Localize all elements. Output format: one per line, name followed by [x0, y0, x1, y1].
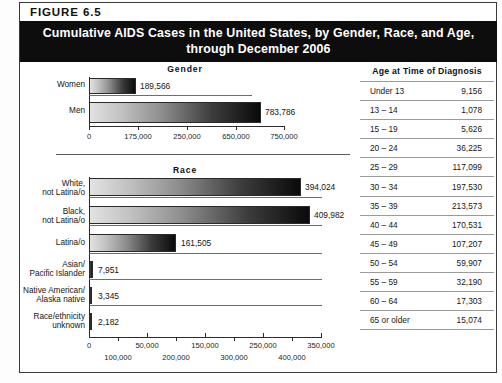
- age-range-label: 15 – 19: [360, 120, 433, 139]
- race-category-label-native: Native American/Alaska native: [20, 286, 85, 305]
- race-row-rule-5: [89, 305, 322, 306]
- table-row: 50 – 5459,907: [360, 253, 494, 272]
- gender-tick-label-4: 750,000: [260, 132, 308, 141]
- race-bar-native: [89, 287, 92, 304]
- race-tick-label-upper-4: 350,000: [299, 341, 343, 350]
- age-range-label: Under 13: [360, 82, 433, 101]
- table-row: 45 – 49107,207: [360, 234, 494, 253]
- age-range-label: 50 – 54: [360, 253, 433, 272]
- race-tick-label-lower-1: 200,000: [154, 353, 198, 362]
- figure-title-text: Cumulative AIDS Cases in the United Stat…: [43, 26, 475, 57]
- age-range-label: 20 – 24: [360, 139, 433, 158]
- race-category-label-unknown: Race/ethnicityunknown: [20, 312, 85, 331]
- race-value-unknown: 2,182: [98, 317, 119, 327]
- age-table-heading: Age at Time of Diagnosis: [360, 66, 494, 81]
- age-case-count: 117,099: [433, 158, 494, 177]
- table-row: 60 – 6417,303: [360, 292, 494, 311]
- gender-category-label-women: Women: [20, 80, 85, 89]
- race-category-label-asian: Asian/Pacific Islander: [20, 260, 85, 279]
- race-tick-1: [118, 337, 119, 341]
- gender-tick-2: [187, 126, 188, 130]
- age-table-body: Under 139,15613 – 141,07815 – 195,62620 …: [360, 82, 494, 330]
- race-tick-3: [176, 337, 177, 341]
- race-bar-latina: [89, 234, 176, 252]
- age-range-label: 45 – 49: [360, 234, 433, 253]
- race-tick-label-upper-1: 50,000: [125, 341, 169, 350]
- gender-tick-label-2: 250,000: [163, 132, 211, 141]
- race-row-rule-3: [89, 253, 322, 254]
- gender-tick-label-3: 650,000: [212, 132, 260, 141]
- age-range-label: 30 – 34: [360, 177, 433, 196]
- table-row: 40 – 44170,531: [360, 215, 494, 234]
- gender-bar-women: [89, 78, 136, 94]
- race-tick-5: [234, 337, 235, 341]
- race-tick-label-upper-0: 0: [79, 341, 99, 350]
- age-case-count: 9,156: [433, 82, 494, 101]
- table-row: 15 – 195,626: [360, 120, 494, 139]
- age-case-count: 17,303: [433, 292, 494, 311]
- gender-tick-0: [89, 126, 90, 130]
- race-bar-white: [89, 178, 301, 196]
- age-range-label: 55 – 59: [360, 272, 433, 291]
- race-value-white: 394,024: [305, 182, 335, 192]
- age-case-count: 213,573: [433, 196, 494, 215]
- race-value-asian: 7,951: [98, 265, 119, 275]
- race-tick-label-upper-3: 250,000: [241, 341, 285, 350]
- gender-tick-label-0: 0: [79, 132, 99, 141]
- race-category-label-latina: Latina/o: [20, 238, 85, 247]
- age-table: Under 139,15613 – 141,07815 – 195,62620 …: [360, 81, 494, 330]
- age-range-label: 60 – 64: [360, 292, 433, 311]
- race-bar-black: [89, 206, 310, 224]
- race-tick-6: [263, 333, 264, 338]
- charts-panel: Gender Women 189,566 Men 783,786 0 175,0…: [20, 62, 350, 372]
- age-range-label: 40 – 44: [360, 215, 433, 234]
- age-table-panel: Age at Time of Diagnosis Under 139,15613…: [360, 66, 494, 330]
- race-bar-asian: [89, 261, 93, 278]
- gender-bar-men: [89, 102, 261, 123]
- age-range-label: 13 – 14: [360, 101, 433, 120]
- age-case-count: 5,626: [433, 120, 494, 139]
- gender-tick-3: [236, 126, 237, 130]
- age-case-count: 59,907: [433, 253, 494, 272]
- age-case-count: 197,530: [433, 177, 494, 196]
- race-value-latina: 161,505: [181, 238, 211, 248]
- figure-container: FIGURE 6.5 Cumulative AIDS Cases in the …: [0, 0, 502, 383]
- age-range-label: 65 or older: [360, 311, 433, 330]
- race-tick-label-lower-0: 100,000: [96, 353, 140, 362]
- table-row: 35 – 39213,573: [360, 196, 494, 215]
- table-row: 30 – 34197,530: [360, 177, 494, 196]
- race-tick-0: [89, 333, 90, 338]
- gender-category-label-men: Men: [20, 106, 85, 115]
- age-case-count: 32,190: [433, 272, 494, 291]
- table-row: 13 – 141,078: [360, 101, 494, 120]
- race-row-rule-4: [89, 279, 322, 280]
- race-row-rule-1: [89, 197, 322, 198]
- race-category-label-white: White,not Latina/o: [20, 179, 85, 198]
- table-row: 65 or older15,074: [360, 311, 494, 330]
- race-tick-4: [205, 333, 206, 338]
- age-case-count: 170,531: [433, 215, 494, 234]
- figure-title-banner: Cumulative AIDS Cases in the United Stat…: [20, 21, 497, 62]
- section-divider: [56, 154, 350, 155]
- age-range-label: 35 – 39: [360, 196, 433, 215]
- gender-value-women: 189,566: [140, 81, 170, 91]
- race-category-label-black: Black,not Latina/o: [20, 207, 85, 226]
- age-case-count: 36,225: [433, 139, 494, 158]
- table-row: Under 139,156: [360, 82, 494, 101]
- race-tick-7: [292, 337, 293, 341]
- race-chart-heading: Race: [20, 165, 350, 175]
- table-row: 55 – 5932,190: [360, 272, 494, 291]
- gender-chart-heading: Gender: [20, 64, 350, 74]
- race-value-native: 3,345: [98, 291, 119, 301]
- age-case-count: 107,207: [433, 234, 494, 253]
- age-case-count: 15,074: [433, 311, 494, 330]
- age-case-count: 1,078: [433, 101, 494, 120]
- race-row-rule-2: [89, 225, 322, 226]
- gender-value-men: 783,786: [265, 107, 295, 117]
- race-tick-2: [147, 333, 148, 338]
- race-tick-label-upper-2: 150,000: [183, 341, 227, 350]
- figure-number-label: FIGURE 6.5: [30, 6, 102, 18]
- figure-title-line-2: through December 2006: [43, 42, 475, 58]
- race-value-black: 409,982: [314, 210, 344, 220]
- gender-tick-1: [138, 126, 139, 130]
